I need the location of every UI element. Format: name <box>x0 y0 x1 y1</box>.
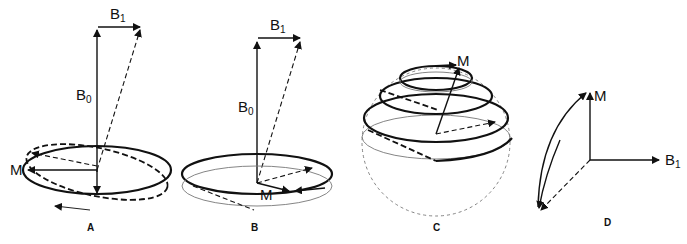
panel-a: M B0 B1 A <box>10 5 172 233</box>
b1-label: B1 <box>665 151 681 170</box>
m-projection-arrow <box>32 153 97 166</box>
m-label: M <box>594 87 607 104</box>
m-label: M <box>457 52 470 69</box>
rotation-direction-icon <box>55 206 90 210</box>
nmr-precession-figure: M B0 B1 A M B0 B1 B <box>0 0 687 244</box>
nutation-arc-return <box>539 140 560 208</box>
panel-label-c: C <box>433 222 440 233</box>
b0-label: B0 <box>76 86 92 105</box>
panel-c: M C <box>362 52 512 233</box>
dashed-m-arrow <box>257 168 312 183</box>
nutation-arc <box>538 93 586 207</box>
panel-label-b: B <box>251 222 258 233</box>
dashed-m-arrow <box>541 160 590 210</box>
m-label: M <box>10 161 23 178</box>
dashed-m-arrow <box>436 122 495 134</box>
b1-label: B1 <box>110 5 126 24</box>
dashed-trace <box>193 186 254 210</box>
panel-b: M B0 B1 B <box>182 16 332 233</box>
panel-label-d: D <box>604 217 611 228</box>
spiral-ring-3 <box>364 94 508 142</box>
effective-field-vector <box>257 42 300 183</box>
top-arrow <box>436 65 456 66</box>
b1-label: B1 <box>270 16 286 35</box>
m-label: M <box>260 186 273 203</box>
panel-d: M B1 D <box>538 87 681 228</box>
panel-label-a: A <box>87 222 94 233</box>
b0-label: B0 <box>238 98 254 117</box>
